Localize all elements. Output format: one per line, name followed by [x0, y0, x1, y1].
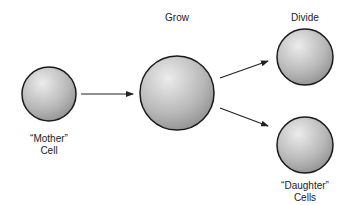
label-divide: Divide	[275, 12, 335, 24]
label-mother-cell: “Mother” Cell	[9, 133, 89, 157]
mother-cell	[22, 67, 76, 121]
label-grow: Grow	[147, 12, 207, 24]
cell-division-diagram	[0, 0, 351, 205]
arrow-divide-top	[220, 61, 268, 78]
daughter-cell-bottom	[277, 117, 333, 173]
arrow-divide-bottom	[220, 108, 268, 126]
grown-cell	[140, 56, 214, 130]
label-daughter-cells: “Daughter” Cells	[262, 180, 348, 204]
daughter-cell-top	[277, 29, 333, 85]
